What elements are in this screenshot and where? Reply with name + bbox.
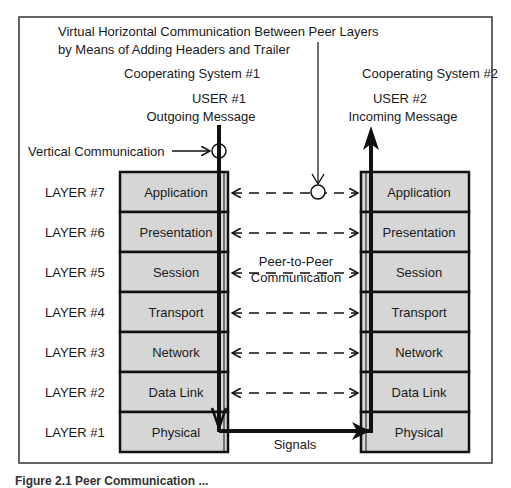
layer-number-label: LAYER #2 <box>45 385 105 400</box>
signals-label: Signals <box>274 437 317 452</box>
virtual-communication-circle <box>311 185 325 199</box>
system2-layer-physical: Physical <box>361 412 469 452</box>
user1-message: Outgoing Message <box>146 109 255 124</box>
peer-label-line-1: Peer-to-Peer <box>259 254 334 269</box>
layer-name: Session <box>396 265 442 280</box>
peer-arrows <box>232 193 358 393</box>
peer-label-line-2: Communication <box>251 270 341 285</box>
layer-number-label: LAYER #5 <box>45 265 105 280</box>
layer-name: Data Link <box>392 385 447 400</box>
system1-layer-application: Application <box>120 172 228 212</box>
layer-name: Transport <box>148 305 204 320</box>
system2-layer-data-link: Data Link <box>361 372 469 412</box>
layer-number-label: LAYER #6 <box>45 225 105 240</box>
figure-caption: Figure 2.1 Peer Communication ... <box>15 474 208 488</box>
user1-label: USER #1 <box>192 91 246 106</box>
layer-name: Session <box>153 265 199 280</box>
system2-label: Cooperating System #2 <box>362 66 498 81</box>
system2-layer-stack: ApplicationPresentationSessionTransportN… <box>361 172 469 452</box>
layer-name: Data Link <box>149 385 204 400</box>
layer-number-label: LAYER #3 <box>45 345 105 360</box>
layer-name: Transport <box>391 305 447 320</box>
system2-layer-application: Application <box>361 172 469 212</box>
layer-name: Network <box>152 345 200 360</box>
system1-layer-session: Session <box>120 252 228 292</box>
user2-label: USER #2 <box>373 91 427 106</box>
layer-name: Application <box>144 185 208 200</box>
system2-layer-session: Session <box>361 252 469 292</box>
layer-number-label: LAYER #4 <box>45 305 105 320</box>
system1-layer-transport: Transport <box>120 292 228 332</box>
system1-layer-data-link: Data Link <box>120 372 228 412</box>
system1-layer-physical: Physical <box>120 412 228 452</box>
layer-name: Application <box>387 185 451 200</box>
layer-name: Presentation <box>140 225 213 240</box>
system1-layer-presentation: Presentation <box>120 212 228 252</box>
vertical-communication-label: Vertical Communication <box>28 144 165 159</box>
layer-name: Physical <box>152 425 201 440</box>
layer-name: Physical <box>395 425 444 440</box>
layer-number-label: LAYER #7 <box>45 185 105 200</box>
title-line-2: by Means of Adding Headers and Trailer <box>58 42 291 57</box>
title-line-1: Virtual Horizontal Communication Between… <box>58 24 379 39</box>
layer-name: Presentation <box>383 225 456 240</box>
layer-number-label: LAYER #1 <box>45 425 105 440</box>
system2-layer-network: Network <box>361 332 469 372</box>
layer-number-labels: LAYER #7LAYER #6LAYER #5LAYER #4LAYER #3… <box>45 185 105 440</box>
user2-message: Incoming Message <box>348 109 457 124</box>
system2-layer-transport: Transport <box>361 292 469 332</box>
system1-layer-network: Network <box>120 332 228 372</box>
system1-label: Cooperating System #1 <box>124 66 260 81</box>
layer-name: Network <box>395 345 443 360</box>
system2-layer-presentation: Presentation <box>361 212 469 252</box>
